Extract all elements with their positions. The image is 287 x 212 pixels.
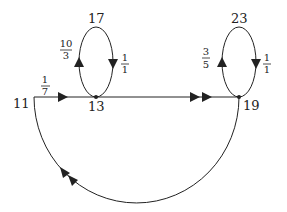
weight-13-17-den: 3 [63,50,69,61]
arrow-right-icon [190,92,200,102]
weight-19-23-den: 5 [203,59,209,70]
weight-11-13-den: 7 [42,86,48,97]
weight-17-13-num: 1 [122,52,128,63]
loop-19-23 [222,27,256,97]
node-label-23: 23 [231,11,248,26]
weight-13-17-num: 10 [60,38,73,49]
arrow-up-icon [74,57,84,67]
arrow-down-icon [251,59,261,69]
node-label-11: 11 [13,96,30,111]
graph-diagram: 11 13 17 19 23 1 7 10 3 1 1 3 5 1 1 [0,0,287,212]
loop-13-17 [79,27,113,97]
weight-17-13-den: 1 [122,64,128,75]
arrow-down-icon [108,59,118,69]
node-label-17: 17 [88,11,105,26]
arrow-up-icon [217,57,227,67]
node-label-13: 13 [88,99,105,114]
node-19 [237,95,241,99]
weight-19-23-num: 3 [203,46,209,57]
arrow-upleft-icon [68,175,78,186]
edge-19-11 [34,97,239,203]
arrow-right-icon [202,92,212,102]
weight-11-13-num: 1 [42,74,48,85]
weight-23-19-num: 1 [264,52,270,63]
arrow-right-icon [58,92,68,102]
weight-23-19-den: 1 [264,64,270,75]
node-label-19: 19 [243,98,260,113]
